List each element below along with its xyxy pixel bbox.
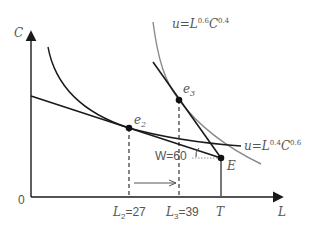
e3-label: e3 (183, 82, 195, 98)
T-tick-label: T (216, 205, 225, 219)
budget-line-steep (153, 62, 221, 158)
L2-tick-label: L2=27 (112, 205, 146, 221)
curve-u2-label: u=L0.4C0.6 (244, 139, 302, 153)
e2-label: e2 (134, 113, 146, 129)
indifference-curve-u2 (48, 47, 241, 146)
L3-tick-label: L3=39 (165, 205, 199, 221)
point-e3 (176, 97, 183, 104)
point-e2 (126, 125, 133, 132)
point-E (218, 155, 225, 162)
x-axis-label: L (277, 205, 286, 219)
y-axis-label: C (14, 26, 23, 40)
origin-label: 0 (18, 193, 25, 207)
wage-label: W=60 (155, 149, 187, 163)
curve-u1-label: u=L0.6C0.4 (172, 17, 230, 31)
E-label: E (226, 159, 236, 173)
diagram-canvas: C 0 L e2 e3 E W=60 L2=27 L3=39 T u=L0.6C… (0, 0, 310, 230)
